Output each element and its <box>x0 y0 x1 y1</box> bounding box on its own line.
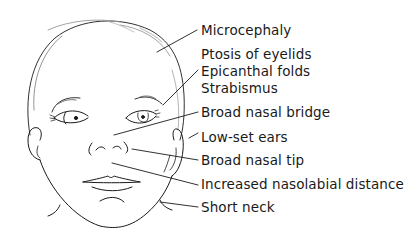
label-strabismus: Strabismus <box>201 80 278 96</box>
nose <box>89 142 128 155</box>
label-epicanthal-folds: Epicanthal folds <box>201 63 310 79</box>
leader-epicanthal <box>163 70 198 105</box>
mouth <box>83 176 140 191</box>
eyebrows <box>52 96 162 112</box>
leader-nasolabial <box>112 163 198 185</box>
label-broad-nasal-tip: Broad nasal tip <box>201 152 304 168</box>
label-microcephaly: Microcephaly <box>201 22 291 38</box>
label-low-set-ears: Low-set ears <box>201 129 288 145</box>
face-diagram: Microcephaly Ptosis of eyelids Epicantha… <box>0 0 419 244</box>
label-ptosis-of-eyelids: Ptosis of eyelids <box>201 46 312 62</box>
neck <box>48 200 172 216</box>
leader-low-set-ears <box>189 133 198 138</box>
left-eye <box>50 111 88 124</box>
chin-crease <box>100 197 124 202</box>
leader-nasal-bridge <box>114 112 198 135</box>
label-short-neck: Short neck <box>201 199 275 215</box>
leader-nasal-tip <box>132 149 198 160</box>
leader-short-neck <box>160 202 198 207</box>
right-ear <box>164 129 183 176</box>
leader-microcephaly <box>157 30 197 52</box>
label-broad-nasal-bridge: Broad nasal bridge <box>201 104 330 120</box>
right-eye <box>126 110 160 123</box>
jaw-outline <box>40 160 172 228</box>
label-increased-nasolabial-distance: Increased nasolabial distance <box>201 176 404 192</box>
leader-lines <box>112 30 198 207</box>
